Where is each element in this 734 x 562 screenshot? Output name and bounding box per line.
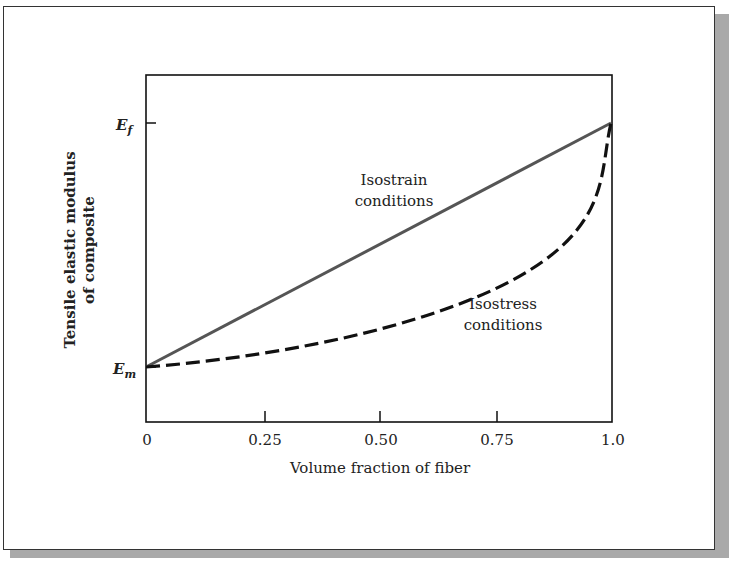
y-label-ef: Ef [115, 116, 134, 137]
isostrain-annotation: Isostrain [361, 171, 428, 189]
x-tick-label: 0 [142, 431, 152, 449]
chart: Ef Em 0 0.25 0.50 0.75 1.0 Volume fracti… [0, 0, 734, 562]
x-tick-label: 1.0 [601, 431, 625, 449]
isostrain-annotation: conditions [355, 192, 434, 210]
plot-area [146, 75, 612, 422]
y-axis-label: Tensile elastic modulus of composite [61, 151, 98, 348]
isostress-annotation: conditions [464, 316, 543, 334]
x-tick-label: 0.75 [480, 431, 513, 449]
x-axis-label: Volume fraction of fiber [289, 459, 471, 477]
y-label-em: Em [112, 360, 136, 381]
x-tick-label: 0.25 [248, 431, 281, 449]
isostress-annotation: Isostress [469, 295, 537, 313]
svg-text:Tensile elastic modulus: Tensile elastic modulus [61, 151, 79, 348]
x-tick-label: 0.50 [364, 431, 397, 449]
svg-text:of composite: of composite [80, 196, 98, 304]
